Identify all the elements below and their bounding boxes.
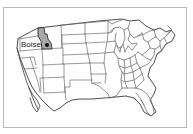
city-marker-boise [45,43,49,47]
map-figure-screenshot: Idaho [0,0,193,134]
city-label-boise: Boise [21,41,41,49]
us-outline-map [4,8,186,127]
map-frame-border: Boise [3,7,187,128]
